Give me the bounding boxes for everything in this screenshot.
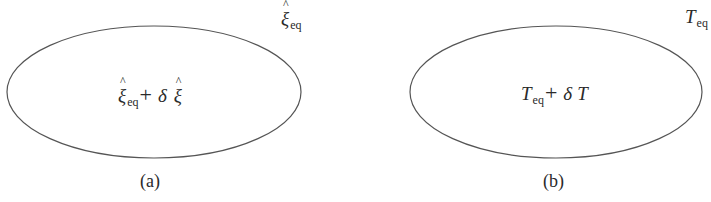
subscript: eq (127, 95, 138, 109)
t-symbol: T (577, 83, 588, 104)
subscript: eq (290, 18, 301, 32)
panel-b-outside-label: Teq (685, 6, 708, 28)
delta-symbol: δ (158, 85, 167, 106)
panel-b-inside-label: Teq+δT (521, 80, 588, 106)
subscript: eq (533, 93, 544, 107)
t-symbol: T (521, 83, 532, 104)
panel-b-caption: (b) (543, 171, 564, 192)
plus-operator: + (139, 82, 151, 107)
panel-a-outside-label: ξeq (281, 8, 301, 30)
xi-hat-symbol: ξ (174, 85, 182, 107)
t-symbol: T (685, 6, 696, 27)
panel-a-inside-label: ξeq+δξ (118, 82, 182, 108)
diagram-canvas (0, 0, 711, 202)
panel-a-caption: (a) (140, 171, 160, 192)
xi-hat-symbol: ξ (118, 85, 126, 107)
subscript: eq (697, 16, 708, 30)
plus-operator: + (545, 80, 557, 105)
delta-symbol: δ (563, 83, 572, 104)
xi-hat-symbol: ξ (281, 8, 289, 30)
